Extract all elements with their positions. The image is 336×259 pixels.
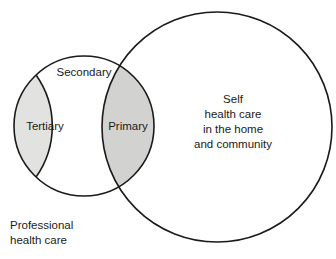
self-care-line-4: and community [194, 138, 272, 150]
self-care-line-2: health care [205, 108, 262, 120]
label-secondary: Secondary [57, 66, 112, 78]
venn-diagram: Tertiary Secondary Primary Self health c… [0, 0, 336, 259]
self-care-line-1: Self [223, 93, 244, 105]
label-primary: Primary [108, 120, 148, 132]
self-care-line-3: in the home [203, 123, 263, 135]
venn-diagram-canvas: Tertiary Secondary Primary Self health c… [0, 0, 336, 259]
label-tertiary: Tertiary [26, 120, 64, 132]
caption-line-2: health care [10, 234, 67, 246]
caption-line-1: Professional [10, 219, 73, 231]
